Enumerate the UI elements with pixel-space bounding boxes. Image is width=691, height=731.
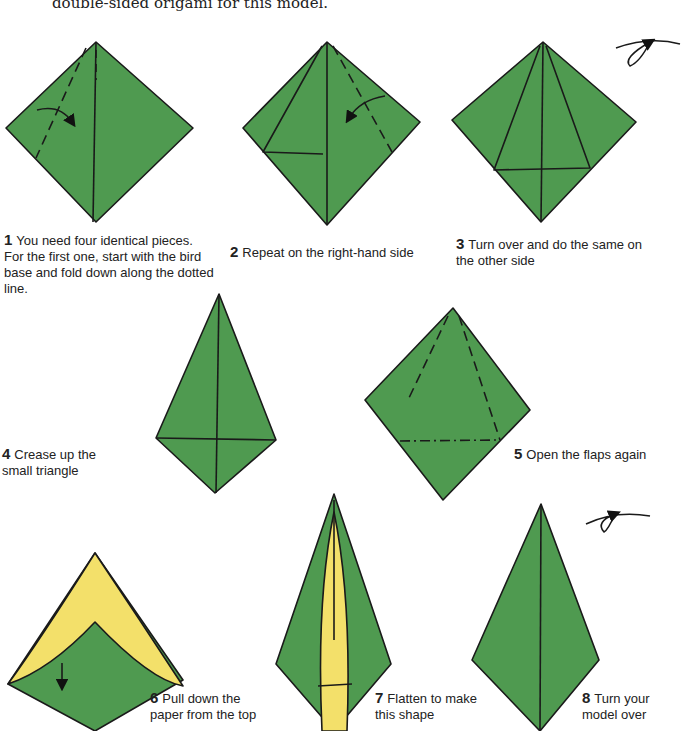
step-1-caption: 1You need four identical pieces. For the…	[4, 232, 214, 297]
step-8-diagram	[472, 504, 599, 731]
step-5-diagram	[365, 308, 530, 500]
turn-over-icon	[586, 514, 650, 532]
step-3-caption: 3Turn over and do the same on the other …	[456, 236, 656, 269]
step-2-diagram	[243, 42, 420, 225]
step-1-diagram	[6, 42, 193, 222]
step-4-caption: 4Crease up the small triangle	[2, 446, 122, 479]
step-7-caption: 7Flatten to make this shape	[375, 690, 485, 723]
step-3-diagram	[452, 42, 636, 222]
step-4-diagram	[156, 294, 276, 493]
origami-diagrams	[0, 0, 691, 731]
step-2-caption: 2Repeat on the right-hand side	[230, 244, 450, 261]
step-5-caption: 5Open the flaps again	[514, 446, 691, 463]
step-7-diagram	[276, 494, 391, 731]
step-8-caption: 8Turn your model over	[582, 690, 682, 723]
turn-over-icon	[616, 41, 680, 66]
step-6-caption: 6Pull down the paper from the top	[150, 690, 275, 723]
